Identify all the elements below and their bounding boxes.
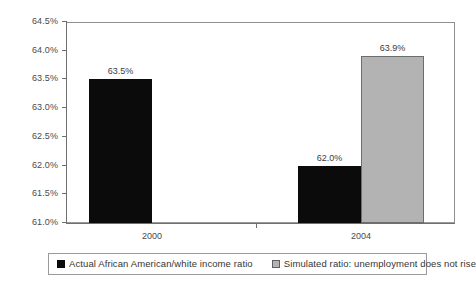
bar-value-label: 63.9% [355,44,430,53]
y-axis-tick-mark [62,222,67,223]
y-axis-tick-label: 63.5% [0,74,58,83]
y-axis-tick-mark [62,165,67,166]
bar-2000-actual [89,79,152,223]
black-square-swatch-icon [57,260,65,268]
x-axis-label-2000: 2000 [112,231,192,241]
y-axis-tick-label: 62.5% [0,132,58,141]
y-axis-tick-label: 64.5% [0,17,58,26]
y-axis-tick-mark [62,50,67,51]
legend-label-actual: Actual African American/white income rat… [69,259,253,269]
y-axis-tick-mark [62,78,67,79]
bar-value-label: 63.5% [83,67,158,76]
chart-legend: Actual African American/white income rat… [48,253,427,275]
y-axis-tick-label: 61.5% [0,189,58,198]
y-axis-tick-label: 62.0% [0,161,58,170]
legend-item-actual: Actual African American/white income rat… [57,259,253,269]
y-axis-tick-mark [62,136,67,137]
legend-label-simulated: Simulated ratio: unemployment does not r… [284,259,476,269]
legend-item-simulated: Simulated ratio: unemployment does not r… [272,259,476,269]
gray-square-swatch-icon [272,260,280,268]
y-axis-tick-label: 63.0% [0,103,58,112]
y-axis-tick-label: 64.0% [0,46,58,55]
y-axis-tick-label: 61.0% [0,218,58,227]
y-axis-tick-mark [62,193,67,194]
x-axis-line [66,223,455,224]
x-axis-group-separator-tick [256,223,257,228]
x-axis-label-2004: 2004 [321,231,401,241]
bar-value-label: 62.0% [292,154,367,163]
bar-2004-actual [298,166,361,223]
bar-2004-simulated [361,56,424,223]
y-axis-tick-mark [62,107,67,108]
y-axis-tick-mark [62,21,67,22]
